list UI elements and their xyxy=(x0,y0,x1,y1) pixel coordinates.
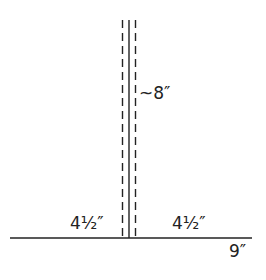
diagram-canvas: ~8″ 4½″ 4½″ 9″ xyxy=(0,0,266,280)
total-width-label: 9″ xyxy=(229,241,246,261)
right-half-label: 4½″ xyxy=(172,213,206,233)
left-half-label: 4½″ xyxy=(70,213,104,233)
height-label: ~8″ xyxy=(139,83,170,103)
